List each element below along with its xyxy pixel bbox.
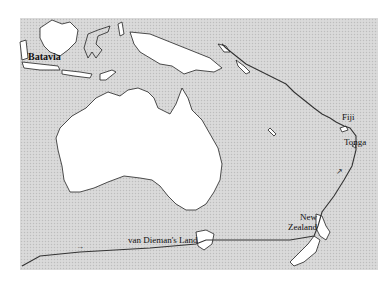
label-van-diemens-land: van Dieman's Land <box>128 236 198 245</box>
sumatra <box>20 40 28 60</box>
lesser-sundas <box>62 70 92 78</box>
new-britain <box>218 44 230 52</box>
label-tonga: Tonga <box>344 138 366 147</box>
java <box>22 62 60 70</box>
new-caledonia <box>268 128 276 136</box>
label-new-zealand-line2: Zealand <box>288 223 317 232</box>
nz-south-island <box>290 236 320 266</box>
label-fiji: Fiji <box>342 113 355 122</box>
arrow-indian-ocean-icon: → <box>76 242 84 251</box>
moluccas <box>118 22 124 36</box>
new-guinea <box>130 32 222 74</box>
timor <box>100 70 116 80</box>
label-new-zealand-line1: New <box>300 213 317 222</box>
sulawesi <box>84 26 110 58</box>
arrow-southwest-pacific-icon: ↗ <box>336 167 343 176</box>
australia <box>56 88 222 210</box>
label-batavia: Batavia <box>28 52 61 62</box>
